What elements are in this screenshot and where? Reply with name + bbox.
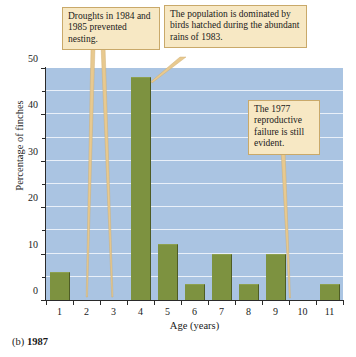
- x-tick-label: 9: [273, 306, 278, 317]
- bar-slot: [73, 68, 100, 300]
- annotation-reproductive-failure: The 1977 reproductive failure is still e…: [248, 100, 320, 155]
- y-tick-minor: [42, 230, 46, 231]
- bar-slot: [181, 68, 208, 300]
- x-axis-title: Age (years): [46, 320, 343, 331]
- x-tick: [100, 301, 101, 305]
- bar: [185, 284, 205, 300]
- annotation-droughts: Droughts in 1984 and 1985 prevented nest…: [62, 7, 160, 50]
- y-tick-label: 10: [28, 240, 38, 250]
- bar-slot: [208, 68, 235, 300]
- bar-slot: [316, 68, 343, 300]
- x-tick: [235, 301, 236, 305]
- annotation-population: The population is dominated by birds hat…: [164, 5, 307, 48]
- x-tick: [154, 301, 155, 305]
- bar-slot: [46, 68, 73, 300]
- x-tick-label: 10: [298, 306, 308, 317]
- y-tick-label: 30: [28, 147, 38, 157]
- y-tick-label: 20: [28, 193, 38, 203]
- x-tick: [316, 301, 317, 305]
- y-axis-title: Percentage of finches: [14, 71, 25, 221]
- y-tick-label: 50: [28, 54, 38, 64]
- y-tick-label: 0: [33, 286, 38, 296]
- x-tick: [289, 301, 290, 305]
- x-tick-label: 4: [138, 306, 143, 317]
- y-tick-minor: [42, 277, 46, 278]
- y-tick: [41, 207, 46, 208]
- x-tick: [181, 301, 182, 305]
- figure-caption: (b) 1987: [12, 336, 48, 347]
- bar-slot: [100, 68, 127, 300]
- bar: [158, 244, 178, 300]
- y-tick-label: 40: [28, 100, 38, 110]
- y-tick: [41, 68, 46, 69]
- x-tick-label: 7: [219, 306, 224, 317]
- bar: [212, 254, 232, 300]
- x-tick: [343, 301, 344, 305]
- bar: [239, 284, 259, 300]
- finch-age-distribution-figure: 01020304050 1234567891011 Percentage of …: [0, 0, 356, 357]
- bar: [266, 254, 286, 300]
- caption-year: 1987: [27, 336, 48, 347]
- x-tick-label: 11: [325, 306, 335, 317]
- y-tick-minor: [42, 138, 46, 139]
- x-tick: [208, 301, 209, 305]
- x-tick: [127, 301, 128, 305]
- y-tick: [41, 254, 46, 255]
- x-tick-label: 6: [192, 306, 197, 317]
- x-tick: [73, 301, 74, 305]
- y-tick-minor: [42, 91, 46, 92]
- x-tick-label: 1: [57, 306, 62, 317]
- y-tick: [41, 114, 46, 115]
- bar-slot: [154, 68, 181, 300]
- x-tick-label: 2: [84, 306, 89, 317]
- y-tick: [41, 161, 46, 162]
- y-tick-minor: [42, 184, 46, 185]
- bar: [320, 284, 340, 300]
- bar: [50, 272, 70, 300]
- x-tick-label: 8: [246, 306, 251, 317]
- x-axis-ticks: 1234567891011: [0, 301, 356, 307]
- x-tick: [46, 301, 47, 305]
- x-tick-label: 3: [111, 306, 116, 317]
- bar-slot: [127, 68, 154, 300]
- x-tick: [262, 301, 263, 305]
- caption-label: (b): [12, 336, 24, 347]
- bar: [131, 77, 151, 300]
- x-tick-label: 5: [165, 306, 170, 317]
